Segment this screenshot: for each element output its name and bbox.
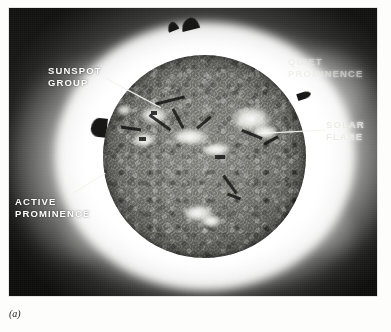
solar-flare-label: SOLAR FLARE [326, 119, 365, 142]
quiet-prominence-label: QUIET PROMINENCE [288, 56, 363, 79]
active-prominence-leader-line [68, 173, 106, 197]
sunspot-group-label: SUNSPOT GROUP [48, 65, 102, 88]
figure-caption: (a) [9, 308, 21, 319]
active-prominence-label: ACTIVE PROMINENCE [15, 196, 90, 219]
solar-photograph: SUNSPOT GROUP QUIET PROMINENCE SOLAR FLA… [9, 8, 377, 296]
annotation-layer: SUNSPOT GROUP QUIET PROMINENCE SOLAR FLA… [9, 8, 377, 296]
sunspot-group-leader-line [106, 78, 161, 108]
figure-root: SUNSPOT GROUP QUIET PROMINENCE SOLAR FLA… [0, 0, 391, 332]
solar-flare-leader-line [258, 129, 326, 134]
